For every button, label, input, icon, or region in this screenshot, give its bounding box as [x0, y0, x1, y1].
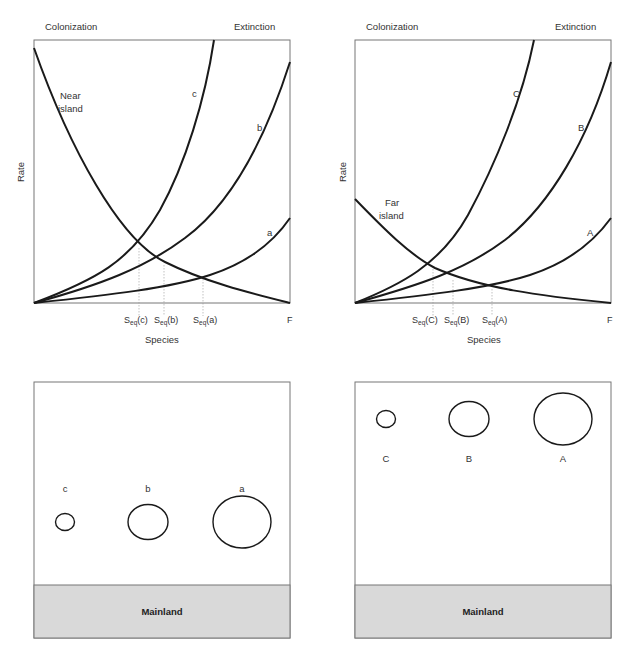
colonization-label: Colonization [45, 21, 97, 32]
island-c-label: c [63, 483, 68, 494]
island-label-line2: island [379, 210, 404, 221]
island-a-label: a [239, 483, 245, 494]
island-label-line2: island [58, 103, 83, 114]
figure: Colonization Extinction Rate Near island… [0, 0, 633, 651]
chart-frame [355, 40, 611, 303]
seq-c-label: Seq(c) [124, 315, 148, 327]
extinction-label: Extinction [234, 21, 275, 32]
island-a-label: A [560, 453, 567, 464]
curve-label-a: a [267, 227, 273, 238]
seq-c-label: Seq(C) [412, 315, 438, 327]
colonization-curve [34, 48, 290, 303]
island-b-label: b [145, 483, 150, 494]
mainland-label: Mainland [141, 606, 182, 617]
extinction-curve-b [355, 62, 611, 303]
curve-label-b: B [578, 122, 584, 133]
y-axis-label: Rate [15, 162, 26, 182]
seq-b-label: Seq(B) [444, 315, 469, 327]
colonization-label: Colonization [366, 21, 418, 32]
far-island-chart: Colonization Extinction Rate Far island … [337, 21, 613, 345]
near-islands-map: Mainland c b a [34, 382, 290, 638]
seq-a-label: Seq(a) [193, 315, 217, 327]
x-end-label: F [607, 315, 613, 325]
seq-a-label: Seq(A) [482, 315, 507, 327]
island-c-label: C [383, 453, 390, 464]
extinction-curve-c [34, 40, 214, 303]
extinction-curve-c [355, 40, 534, 303]
curve-label-b: b [257, 122, 262, 133]
extinction-label: Extinction [555, 21, 596, 32]
extinction-curve-a [355, 218, 611, 303]
island-label-line1: Far [385, 197, 399, 208]
y-axis-label: Rate [337, 162, 348, 182]
island-label-line1: Near [60, 90, 81, 101]
chart-frame [34, 40, 290, 303]
x-axis-label: Species [145, 334, 179, 345]
curve-label-c: C [513, 88, 520, 99]
curve-label-c: c [192, 88, 197, 99]
x-end-label: F [287, 315, 293, 325]
x-axis-label: Species [467, 334, 501, 345]
seq-b-label: Seq(b) [154, 315, 178, 327]
near-island-chart: Colonization Extinction Rate Near island… [15, 21, 293, 345]
mainland-label: Mainland [462, 606, 503, 617]
curve-label-a: A [587, 227, 594, 238]
far-islands-map: Mainland C B A [355, 382, 611, 638]
island-b-label: B [466, 453, 472, 464]
